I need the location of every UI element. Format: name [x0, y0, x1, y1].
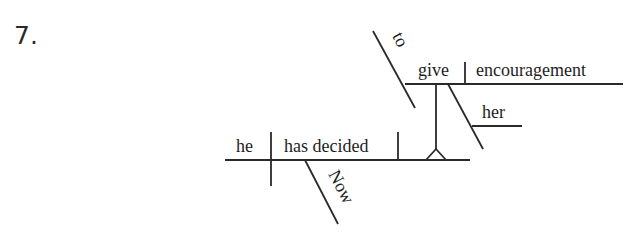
word-subject: he	[236, 136, 253, 156]
pedestal-base	[426, 149, 446, 160]
word-verb: has decided	[284, 136, 368, 156]
word-indirect-object: her	[482, 102, 505, 122]
word-adverb: Now	[324, 166, 358, 206]
word-infinitive-marker: to	[388, 28, 412, 50]
sentence-diagram: he has decided Now to give encouragement…	[0, 0, 644, 235]
word-infinitive-verb: give	[418, 60, 449, 80]
indirect-object-slant	[448, 84, 483, 149]
word-direct-object: encouragement	[476, 60, 586, 80]
